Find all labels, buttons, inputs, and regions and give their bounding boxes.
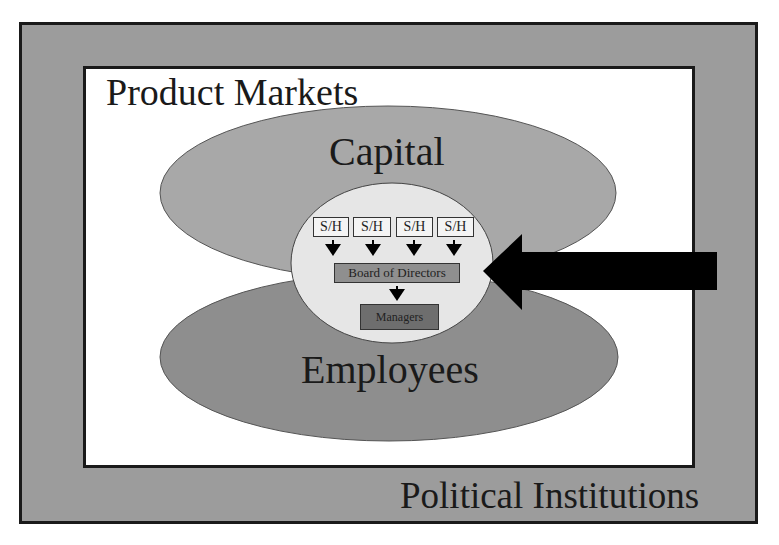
shareholder-box: S/H (396, 217, 433, 237)
capital-label: Capital (329, 132, 445, 172)
external-pressure-arrow-icon (483, 234, 717, 310)
shareholder-box: S/H (353, 217, 391, 237)
employees-label: Employees (301, 350, 479, 390)
shareholder-box: S/H (437, 217, 474, 237)
shareholder-box: S/H (313, 217, 349, 237)
managers-box: Managers (360, 304, 439, 330)
political-institutions-label: Political Institutions (400, 477, 699, 514)
product-markets-label: Product Markets (106, 73, 358, 111)
board-of-directors-box: Board of Directors (334, 263, 460, 283)
